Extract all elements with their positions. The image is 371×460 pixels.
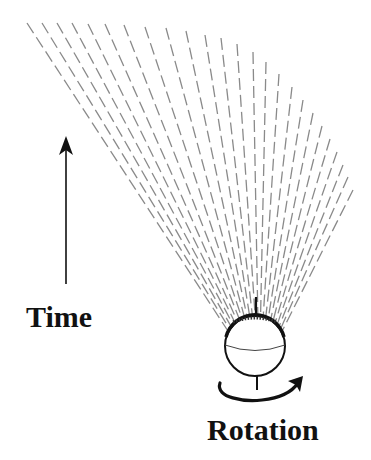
emission-ray — [221, 38, 252, 314]
time-label: Time — [26, 300, 92, 334]
emission-ray — [281, 177, 348, 328]
time-arrow-icon — [59, 136, 73, 284]
emission-ray — [269, 100, 304, 317]
emission-ray — [261, 62, 266, 315]
emission-ray — [263, 74, 279, 315]
emission-ray — [283, 190, 353, 330]
emission-ray — [276, 139, 330, 322]
rotating-emitter-diagram — [0, 0, 371, 460]
emission-rays — [27, 23, 353, 330]
emission-ray — [57, 23, 231, 325]
emission-ray — [72, 23, 232, 323]
emission-ray — [88, 24, 234, 322]
emission-ray — [124, 25, 239, 318]
rotation-arrow-icon — [219, 376, 303, 400]
emission-ray — [278, 152, 337, 323]
emission-ray — [42, 23, 229, 328]
emission-ray — [27, 23, 227, 330]
rotation-label: Rotation — [207, 413, 319, 447]
diagram-canvas: Time Rotation — [0, 0, 371, 460]
emission-ray — [237, 44, 255, 314]
emission-ray — [253, 52, 258, 314]
